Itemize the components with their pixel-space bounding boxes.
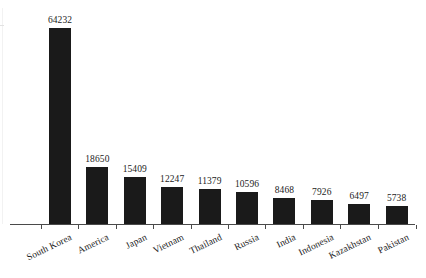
x-axis-tick — [378, 225, 379, 229]
bar-pakistan — [386, 206, 408, 224]
x-axis-tick — [303, 225, 304, 229]
bar-vietnam — [161, 187, 183, 224]
x-axis-tick — [153, 225, 154, 229]
bar-value-label: 64232 — [36, 15, 84, 26]
bar-chart: 6423218650154091224711379105968468792664… — [0, 0, 426, 278]
bar-indonesia — [311, 200, 333, 224]
bar-russia — [236, 192, 258, 224]
bar-america — [86, 167, 108, 224]
bar-value-label: 5738 — [373, 193, 421, 204]
x-axis-tick — [228, 225, 229, 229]
x-axis-line — [10, 224, 415, 225]
bar-india — [273, 198, 295, 224]
x-axis-tick — [340, 225, 341, 229]
x-axis-tick — [78, 225, 79, 229]
y-axis-spine — [2, 8, 3, 224]
bar-south-korea — [49, 28, 71, 224]
bar-kazakhstan — [348, 204, 370, 224]
bar-japan — [124, 177, 146, 224]
x-axis-tick — [191, 225, 192, 229]
y-axis-tick — [0, 25, 4, 26]
bar-thailand — [199, 189, 221, 224]
plot-area: 6423218650154091224711379105968468792664… — [0, 0, 426, 278]
x-axis-tick — [416, 225, 417, 229]
x-axis-tick — [41, 225, 42, 229]
x-axis-tick — [265, 225, 266, 229]
x-axis-tick — [116, 225, 117, 229]
